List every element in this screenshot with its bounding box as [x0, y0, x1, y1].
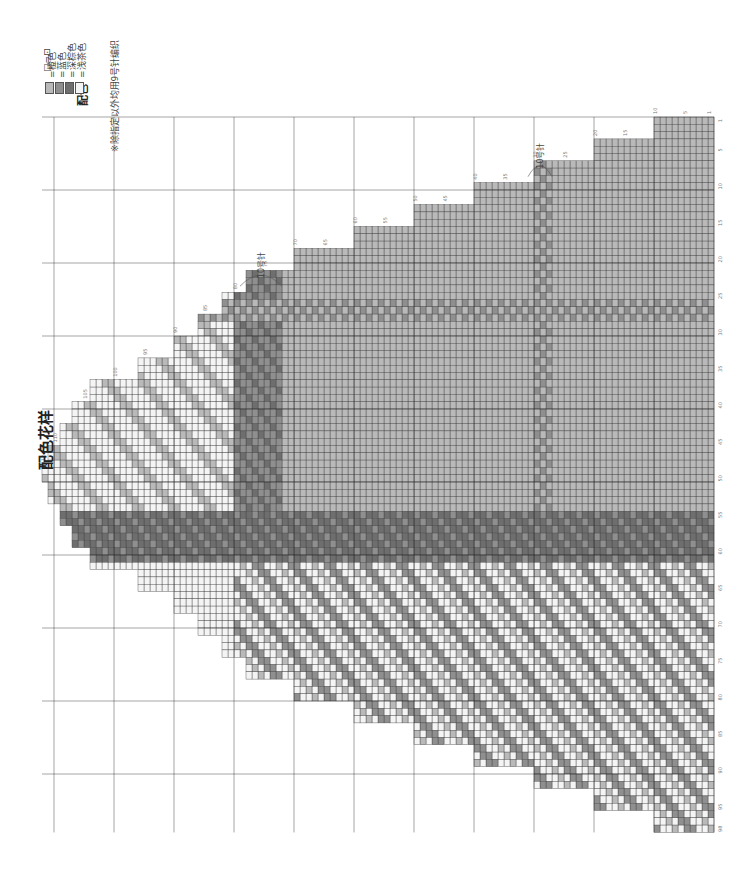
- svg-text:40: 40: [717, 402, 723, 408]
- svg-text:70: 70: [717, 621, 723, 627]
- svg-text:50: 50: [412, 195, 418, 201]
- svg-text:1: 1: [706, 111, 712, 114]
- svg-text:10号针: 10号针: [256, 252, 266, 278]
- svg-text:5: 5: [717, 148, 723, 151]
- svg-text:45: 45: [717, 439, 723, 445]
- svg-text:20: 20: [592, 130, 598, 136]
- svg-text:80: 80: [232, 283, 238, 289]
- legend-swatch: [75, 82, 84, 94]
- needle-note: ※除指定以外均用9号针编织: [108, 40, 121, 152]
- svg-text:15: 15: [622, 130, 628, 136]
- svg-text:10: 10: [717, 183, 723, 189]
- svg-text:60: 60: [717, 548, 723, 554]
- svg-text:35: 35: [717, 366, 723, 372]
- svg-text:10号针: 10号针: [535, 143, 545, 169]
- svg-text:85: 85: [717, 731, 723, 737]
- svg-text:55: 55: [717, 512, 723, 518]
- svg-text:55: 55: [382, 217, 388, 223]
- legend-swatch: [45, 82, 54, 94]
- svg-text:70: 70: [292, 239, 298, 245]
- svg-text:60: 60: [352, 217, 358, 223]
- svg-text:40: 40: [472, 173, 478, 179]
- svg-text:98: 98: [717, 826, 723, 832]
- svg-text:5: 5: [682, 111, 688, 114]
- svg-text:30: 30: [717, 329, 723, 335]
- svg-text:35: 35: [502, 173, 508, 179]
- svg-text:1: 1: [717, 119, 723, 122]
- chart-title: 配色花样: [34, 410, 55, 470]
- svg-text:45: 45: [442, 195, 448, 201]
- svg-text:15: 15: [717, 220, 723, 226]
- svg-text:100: 100: [112, 367, 118, 377]
- svg-text:50: 50: [717, 475, 723, 481]
- svg-text:25: 25: [717, 293, 723, 299]
- svg-text:80: 80: [717, 694, 723, 700]
- svg-text:20: 20: [717, 256, 723, 262]
- svg-text:95: 95: [142, 349, 148, 355]
- svg-text:75: 75: [717, 658, 723, 664]
- legend-swatch: [65, 82, 74, 94]
- svg-text:10: 10: [652, 108, 658, 114]
- legend-label: =浅茶色: [75, 43, 88, 78]
- svg-text:85: 85: [202, 305, 208, 311]
- svg-text:25: 25: [562, 151, 568, 157]
- svg-text:105: 105: [82, 389, 88, 399]
- svg-text:90: 90: [717, 767, 723, 773]
- svg-text:90: 90: [172, 327, 178, 333]
- svg-text:65: 65: [717, 585, 723, 591]
- svg-text:65: 65: [322, 239, 328, 245]
- svg-text:95: 95: [717, 804, 723, 810]
- legend-swatch: [55, 82, 64, 94]
